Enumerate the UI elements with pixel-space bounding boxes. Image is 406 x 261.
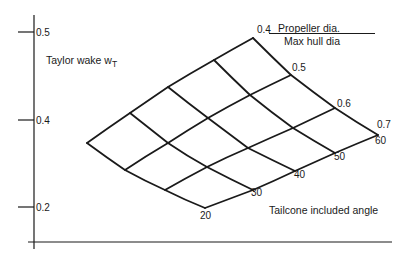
curve-ratio-0.7 — [205, 135, 378, 208]
svg-text:0.5: 0.5 — [36, 27, 50, 38]
ratio-label-0.6: 0.6 — [337, 98, 351, 109]
angle-label-50: 50 — [334, 151, 346, 162]
ratio-curves — [87, 38, 378, 208]
curve-angle-40 — [168, 87, 295, 171]
y-axis-label: Taylor wake wT — [46, 54, 117, 69]
svg-text:0.4: 0.4 — [36, 115, 50, 126]
curve-ratio-0.5 — [125, 75, 291, 170]
curve-angle-60 — [253, 38, 378, 135]
angle-parameter-label: Tailcone included angle — [269, 204, 378, 216]
angle-label-60: 60 — [375, 135, 387, 146]
ratio-label-0.5: 0.5 — [292, 62, 306, 73]
carpet-chart: 0.5 0.4 0.2 Taylor wake wT Propeller dia… — [0, 0, 406, 261]
svg-text:Propeller dia.: Propeller dia. — [278, 22, 340, 34]
svg-text:Max hull dia: Max hull dia — [284, 35, 340, 47]
angle-label-20: 20 — [200, 210, 212, 221]
angle-label-30: 30 — [251, 187, 263, 198]
curve-angle-20 — [87, 143, 205, 208]
ratio-parameter-label: Propeller dia. Max hull dia — [269, 22, 375, 47]
svg-text:0.2: 0.2 — [36, 202, 50, 213]
ratio-label-0.4: 0.4 — [257, 24, 271, 35]
curve-angle-50 — [214, 60, 335, 153]
angle-curves — [87, 38, 378, 208]
angle-label-40: 40 — [294, 169, 306, 180]
ratio-label-0.7: 0.7 — [377, 119, 391, 130]
curve-angle-30 — [130, 113, 253, 190]
